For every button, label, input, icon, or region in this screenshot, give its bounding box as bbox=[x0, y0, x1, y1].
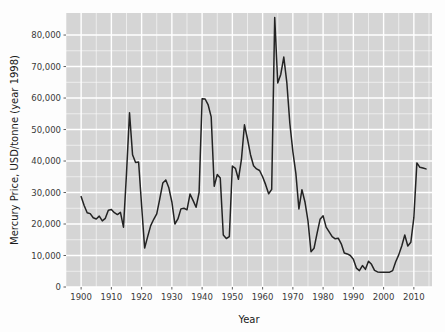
y-axis-tick-labels: 010,00020,00030,00040,00050,00060,00070,… bbox=[31, 30, 61, 292]
x-tick-label: 2010 bbox=[403, 292, 425, 302]
x-tick-label: 1900 bbox=[70, 292, 92, 302]
y-tick-label: 40,000 bbox=[31, 156, 61, 166]
y-tick-label: 70,000 bbox=[31, 62, 61, 72]
mercury-price-line-chart: 010,00020,00030,00040,00050,00060,00070,… bbox=[0, 0, 445, 332]
x-tick-label: 1970 bbox=[282, 292, 304, 302]
y-tick-label: 30,000 bbox=[31, 188, 61, 198]
x-tick-label: 1960 bbox=[252, 292, 274, 302]
chart-container: 010,00020,00030,00040,00050,00060,00070,… bbox=[0, 0, 445, 332]
x-tick-label: 1940 bbox=[191, 292, 213, 302]
x-axis-title: Year bbox=[237, 314, 260, 325]
x-tick-label: 1930 bbox=[161, 292, 183, 302]
y-tick-label: 10,000 bbox=[31, 251, 61, 261]
y-tick-label: 50,000 bbox=[31, 125, 61, 135]
y-tick-label: 20,000 bbox=[31, 219, 61, 229]
y-tick-label: 80,000 bbox=[31, 30, 61, 40]
x-tick-label: 1920 bbox=[131, 292, 153, 302]
y-axis-title: Mercury Price, USD/tonne (year 1998) bbox=[9, 55, 20, 245]
x-tick-label: 1910 bbox=[101, 292, 123, 302]
x-tick-label: 1950 bbox=[222, 292, 244, 302]
x-tick-label: 1990 bbox=[343, 292, 365, 302]
x-tick-label: 1980 bbox=[312, 292, 334, 302]
y-tick-label: 0 bbox=[56, 282, 61, 292]
y-tick-label: 60,000 bbox=[31, 93, 61, 103]
x-tick-label: 2000 bbox=[373, 292, 395, 302]
